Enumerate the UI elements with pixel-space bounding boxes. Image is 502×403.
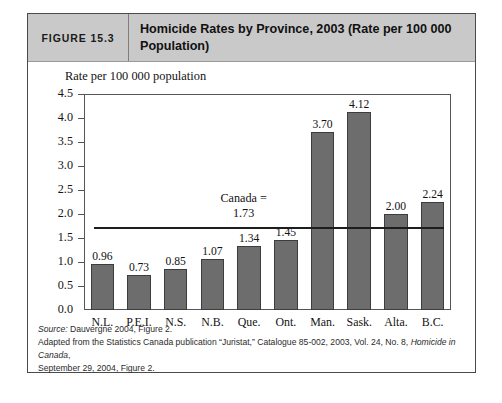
bar — [127, 275, 151, 310]
figure-number-cell: FIGURE 15.3 — [28, 14, 129, 61]
y-axis-title: Rate per 100 000 population — [65, 69, 206, 84]
source-note-line-1: Source: Dauvergne 2004, Figure 2. — [38, 323, 467, 336]
bar — [274, 240, 298, 310]
figure-number-label: FIGURE 15.3 — [42, 32, 115, 44]
y-axis-tick-label: 4.5 — [58, 86, 73, 101]
figure-header: FIGURE 15.3 Homicide Rates by Province, … — [28, 14, 475, 62]
bar-value-label: 0.96 — [84, 250, 121, 263]
y-axis-tick-label: 2.0 — [58, 206, 73, 221]
bar — [237, 246, 261, 310]
source-adapted-text-end: , — [68, 350, 70, 360]
bar-group: 2.24B.C. — [414, 94, 451, 310]
y-axis-tick-label: 0.5 — [58, 278, 73, 293]
bar — [201, 259, 225, 310]
source-adapted-text: Adapted from the Statistics Canada publi… — [38, 337, 411, 347]
canada-label-text: Canada = — [200, 191, 288, 206]
bar-group: 0.85N.S. — [157, 94, 194, 310]
bar-value-label: 3.70 — [304, 118, 341, 131]
bar-value-label: 4.12 — [341, 98, 378, 111]
bar-value-label: 0.73 — [121, 261, 158, 274]
y-axis-tick-label: 1.5 — [58, 230, 73, 245]
bar — [164, 269, 188, 310]
bar — [421, 202, 445, 310]
bar — [311, 132, 335, 310]
bar-value-label: 0.85 — [157, 255, 194, 268]
source-citation: Dauvergne 2004, Figure 2. — [68, 324, 173, 334]
y-axis-tick-label: 2.5 — [58, 182, 73, 197]
canada-reference-label: Canada =1.73 — [200, 191, 288, 222]
canada-label-value: 1.73 — [200, 206, 288, 221]
bar — [91, 264, 115, 310]
bar-value-label: 1.34 — [231, 232, 268, 245]
figure-title-cell: Homicide Rates by Province, 2003 (Rate p… — [129, 14, 475, 61]
source-note-line-2: Adapted from the Statistics Canada publi… — [38, 336, 467, 362]
bar — [347, 112, 371, 310]
source-note: Source: Dauvergne 2004, Figure 2. Adapte… — [38, 323, 467, 375]
bar-value-label: 2.00 — [378, 200, 415, 213]
bar-group: 0.73P.E.I. — [121, 94, 158, 310]
chart-body: Rate per 100 000 population 0.00.51.01.5… — [28, 62, 475, 318]
source-note-line-3: September 29, 2004, Figure 2. — [38, 362, 467, 375]
figure-container: FIGURE 15.3 Homicide Rates by Province, … — [27, 13, 476, 373]
bar-value-label: 2.24 — [414, 188, 451, 201]
bar-value-label: 1.07 — [194, 245, 231, 258]
canada-reference-line — [94, 227, 444, 229]
bar-group: 2.00Alta. — [378, 94, 415, 310]
figure-title: Homicide Rates by Province, 2003 (Rate p… — [140, 21, 465, 55]
y-axis-tick-label: 3.5 — [58, 134, 73, 149]
y-axis-tick-label: 1.0 — [58, 254, 73, 269]
y-axis-tick-label: 3.0 — [58, 158, 73, 173]
y-axis-tick-label: 0.0 — [58, 302, 73, 317]
source-label: Source: — [38, 324, 68, 334]
bar-group: 3.70Man. — [304, 94, 341, 310]
bar-group: 0.96N.L. — [84, 94, 121, 310]
bar-group: 4.12Sask. — [341, 94, 378, 310]
y-axis-tick-label: 4.0 — [58, 110, 73, 125]
